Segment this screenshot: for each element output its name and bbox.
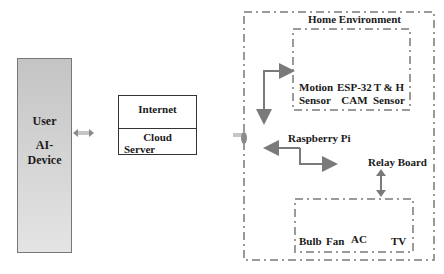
home-environment-title: Home Environment xyxy=(308,13,401,26)
user-ai-device-block: User AI- Device xyxy=(17,58,72,253)
motion-sensor-label: MotionSensor xyxy=(299,81,333,107)
user-cloud-double-arrow xyxy=(73,129,94,137)
th-sensor-label: T & HSensor xyxy=(373,81,405,107)
appliance-fan: Fan xyxy=(326,235,344,248)
device-label: Device xyxy=(18,153,71,167)
ai-label: AI- xyxy=(18,138,71,152)
appliance-tv: TV xyxy=(391,235,406,248)
internet-label: Internet xyxy=(119,103,196,115)
relay-board-label: Relay Board xyxy=(368,156,427,169)
user-label: User xyxy=(18,114,71,128)
internet-section: Internet xyxy=(119,96,196,129)
appliance-ac: AC xyxy=(351,233,367,246)
relay-appliances-arrow xyxy=(376,169,386,197)
pi-sensors-arrow xyxy=(264,71,291,119)
raspberry-pi-label: Raspberry Pi xyxy=(288,132,351,145)
appliance-bulb: Bulb xyxy=(299,235,322,248)
internet-cloud-block: Internet Cloud Server xyxy=(118,95,197,155)
esp32-cam-label: ESP-32CAM xyxy=(337,81,372,107)
cloud-label: Cloud xyxy=(119,131,196,143)
server-label: Server xyxy=(124,143,155,155)
pi-relay-arrow xyxy=(300,148,334,164)
cloud-home-arrow xyxy=(233,132,247,144)
